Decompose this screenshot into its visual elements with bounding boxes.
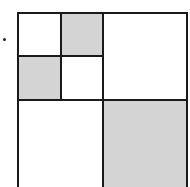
divider-horizontal-main <box>17 99 188 101</box>
divider-horizontal-small <box>17 55 104 57</box>
cell-large-bottom-right-shaded <box>103 100 187 187</box>
bullet-dot <box>3 38 6 41</box>
cell-small-top-right-shaded <box>61 13 103 56</box>
cell-small-bottom-left-shaded <box>18 56 61 100</box>
